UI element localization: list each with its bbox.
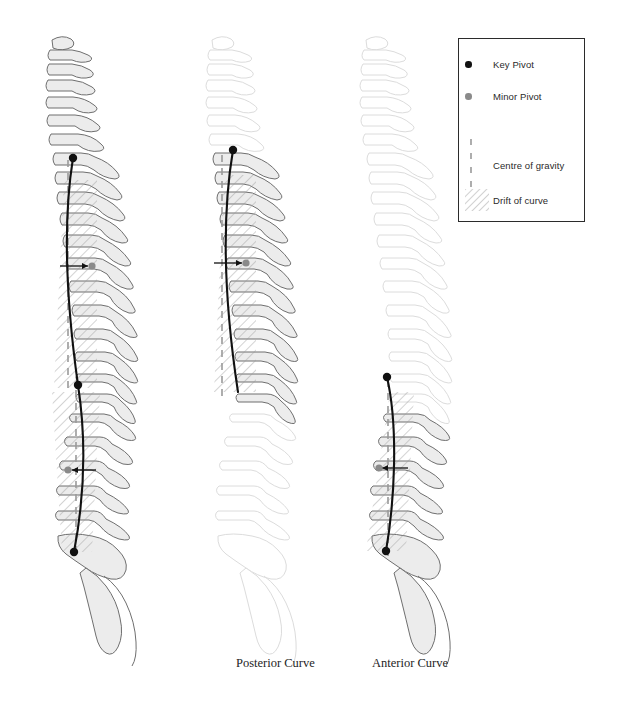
legend-label-drift-of-curve: Drift of curve (493, 195, 548, 206)
dashed-vertical-line-icon (459, 137, 493, 193)
spine-anterior-bones-faded (360, 37, 452, 424)
caption-anterior-curve: Anterior Curve (372, 656, 448, 671)
spine-posterior (206, 37, 298, 666)
legend-label-key-pivot: Key Pivot (493, 59, 534, 70)
diagonal-hatch-icon (459, 189, 493, 211)
legend-label-centre-of-gravity: Centre of gravity (493, 160, 564, 171)
legend-panel: Key Pivot Minor Pivot Centre of gravity (458, 38, 585, 222)
key-pivot-dot-icon (459, 61, 493, 68)
spine-full (46, 37, 138, 666)
caption-posterior-curve: Posterior Curve (236, 656, 315, 671)
legend-item-centre-of-gravity: Centre of gravity (459, 137, 564, 193)
legend-item-drift-of-curve: Drift of curve (459, 189, 548, 211)
legend-item-key-pivot: Key Pivot (459, 59, 534, 70)
spine-posterior-drift (214, 175, 256, 392)
spine-anterior (360, 37, 452, 666)
legend-label-minor-pivot: Minor Pivot (493, 91, 542, 102)
minor-pivot-dot-icon (459, 93, 493, 100)
legend-item-minor-pivot: Minor Pivot (459, 91, 542, 102)
figure-canvas: Key Pivot Minor Pivot Centre of gravity (0, 0, 620, 708)
